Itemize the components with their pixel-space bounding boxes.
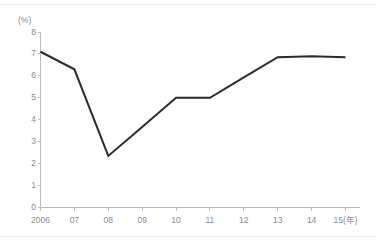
chart-figure: (%) 012345678 2006070809101112131415(年)	[0, 0, 376, 240]
y-tick-label: 5	[14, 93, 36, 102]
x-tick-label: 15(年)	[324, 216, 368, 225]
y-tick-label: 0	[14, 203, 36, 212]
x-axis-group	[41, 208, 361, 211]
y-tick-label: 1	[14, 181, 36, 190]
y-tick-label: 7	[14, 49, 36, 58]
y-tick-label: 3	[14, 137, 36, 146]
y-tick-label: 6	[14, 71, 36, 80]
y-tick-label: 4	[14, 115, 36, 124]
y-axis-group	[38, 32, 41, 208]
y-tick-label: 2	[14, 159, 36, 168]
plot-area	[0, 0, 376, 240]
y-tick-label: 8	[14, 28, 36, 37]
data-series-line	[41, 52, 346, 156]
